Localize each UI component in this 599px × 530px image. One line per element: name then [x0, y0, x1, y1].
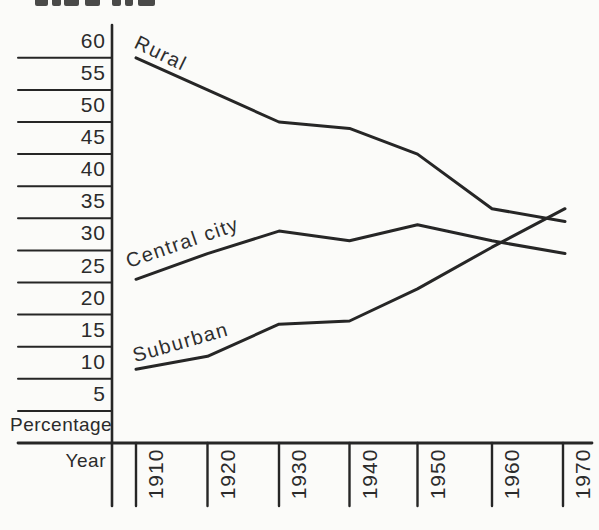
x-axis-year-label: 1930: [287, 449, 311, 500]
x-axis-year-label: 1970: [571, 449, 595, 500]
y-axis-label: 25: [20, 254, 106, 278]
x-axis-title: Year: [10, 450, 106, 472]
x-axis-year-label: 1950: [426, 449, 450, 500]
y-axis-label: 15: [20, 318, 106, 342]
x-axis-year-label: 1960: [500, 449, 524, 500]
y-axis-label: 60: [20, 29, 106, 53]
y-axis-label: 55: [20, 61, 106, 85]
y-axis-label: 5: [20, 382, 106, 406]
y-axis-label: 20: [20, 286, 106, 310]
x-axis-year-label: 1940: [358, 449, 382, 500]
y-axis-label: 35: [20, 189, 106, 213]
y-axis-label: 10: [20, 350, 106, 374]
y-axis-label: 40: [20, 157, 106, 181]
x-axis-year-label: 1910: [144, 449, 168, 500]
x-axis-year-label: 1920: [216, 449, 240, 500]
y-axis-label: 30: [20, 221, 106, 245]
y-axis-label: 45: [20, 125, 106, 149]
population-percentage-line-chart: Percentage Year 510152025303540455055601…: [0, 0, 599, 530]
series-line-rural: [136, 58, 565, 222]
y-axis-title: Percentage: [10, 414, 106, 436]
y-axis-label: 50: [20, 93, 106, 117]
